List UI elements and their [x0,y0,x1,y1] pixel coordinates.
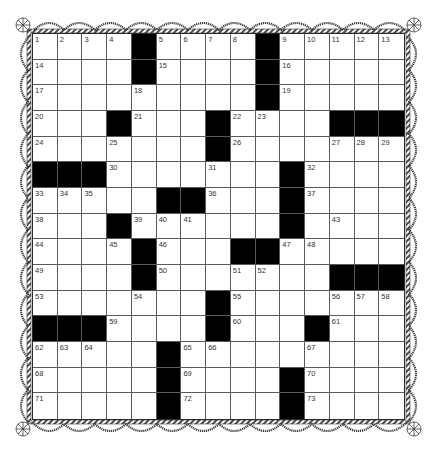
answer-cell[interactable]: 30 [107,162,132,188]
answer-cell[interactable]: 8 [231,34,256,60]
answer-cell[interactable] [379,162,404,188]
answer-cell[interactable] [82,368,107,394]
answer-cell[interactable]: 32 [305,162,330,188]
answer-cell[interactable] [355,342,380,368]
answer-cell[interactable] [206,60,231,86]
answer-cell[interactable]: 24 [33,137,58,163]
answer-cell[interactable] [231,368,256,394]
answer-cell[interactable]: 12 [355,34,380,60]
answer-cell[interactable]: 54 [132,291,157,317]
answer-cell[interactable]: 61 [330,316,355,342]
answer-cell[interactable] [280,111,305,137]
answer-cell[interactable]: 63 [58,342,83,368]
answer-cell[interactable]: 16 [280,60,305,86]
answer-cell[interactable]: 33 [33,188,58,214]
answer-cell[interactable]: 50 [157,265,182,291]
answer-cell[interactable] [355,239,380,265]
answer-cell[interactable]: 56 [330,291,355,317]
answer-cell[interactable] [330,60,355,86]
answer-cell[interactable]: 60 [231,316,256,342]
answer-cell[interactable] [379,368,404,394]
answer-cell[interactable] [206,214,231,240]
answer-cell[interactable] [58,368,83,394]
answer-cell[interactable] [58,137,83,163]
answer-cell[interactable] [280,265,305,291]
answer-cell[interactable]: 70 [305,368,330,394]
answer-cell[interactable] [256,368,281,394]
answer-cell[interactable] [82,265,107,291]
answer-cell[interactable]: 58 [379,291,404,317]
answer-cell[interactable] [231,214,256,240]
answer-cell[interactable]: 64 [82,342,107,368]
answer-cell[interactable] [58,393,83,419]
answer-cell[interactable]: 43 [330,214,355,240]
answer-cell[interactable]: 22 [231,111,256,137]
answer-cell[interactable] [231,342,256,368]
answer-cell[interactable] [157,291,182,317]
answer-cell[interactable] [231,393,256,419]
answer-cell[interactable] [379,342,404,368]
answer-cell[interactable] [157,162,182,188]
answer-cell[interactable] [256,393,281,419]
answer-cell[interactable]: 36 [206,188,231,214]
answer-cell[interactable]: 20 [33,111,58,137]
answer-cell[interactable] [58,111,83,137]
answer-cell[interactable]: 47 [280,239,305,265]
answer-cell[interactable] [181,60,206,86]
answer-cell[interactable]: 38 [33,214,58,240]
answer-cell[interactable] [206,368,231,394]
answer-cell[interactable] [330,393,355,419]
answer-cell[interactable]: 5 [157,34,182,60]
answer-cell[interactable] [355,188,380,214]
answer-cell[interactable]: 59 [107,316,132,342]
answer-cell[interactable]: 73 [305,393,330,419]
answer-cell[interactable] [330,188,355,214]
answer-cell[interactable]: 67 [305,342,330,368]
answer-cell[interactable]: 65 [181,342,206,368]
answer-cell[interactable] [181,265,206,291]
answer-cell[interactable]: 72 [181,393,206,419]
answer-cell[interactable]: 46 [157,239,182,265]
answer-cell[interactable] [355,85,380,111]
answer-cell[interactable]: 66 [206,342,231,368]
answer-cell[interactable]: 18 [132,85,157,111]
answer-cell[interactable]: 4 [107,34,132,60]
answer-cell[interactable] [132,342,157,368]
answer-cell[interactable] [231,85,256,111]
answer-cell[interactable] [231,162,256,188]
answer-cell[interactable] [58,265,83,291]
answer-cell[interactable] [355,368,380,394]
answer-cell[interactable] [206,85,231,111]
answer-cell[interactable] [256,214,281,240]
answer-cell[interactable] [107,393,132,419]
answer-cell[interactable] [379,316,404,342]
answer-cell[interactable] [256,316,281,342]
answer-cell[interactable]: 51 [231,265,256,291]
answer-cell[interactable]: 55 [231,291,256,317]
answer-cell[interactable] [379,393,404,419]
answer-cell[interactable] [82,239,107,265]
answer-cell[interactable] [305,265,330,291]
answer-cell[interactable]: 34 [58,188,83,214]
answer-cell[interactable]: 7 [206,34,231,60]
answer-cell[interactable] [305,214,330,240]
answer-cell[interactable] [305,85,330,111]
answer-cell[interactable] [157,316,182,342]
answer-cell[interactable]: 15 [157,60,182,86]
answer-cell[interactable]: 28 [355,137,380,163]
answer-cell[interactable] [132,368,157,394]
answer-cell[interactable] [107,342,132,368]
answer-cell[interactable] [256,137,281,163]
answer-cell[interactable] [305,111,330,137]
answer-cell[interactable] [58,291,83,317]
answer-cell[interactable] [181,239,206,265]
answer-cell[interactable] [107,368,132,394]
answer-cell[interactable]: 41 [181,214,206,240]
answer-cell[interactable] [132,162,157,188]
answer-cell[interactable] [132,316,157,342]
answer-cell[interactable] [206,265,231,291]
answer-cell[interactable] [330,162,355,188]
answer-cell[interactable] [157,85,182,111]
answer-cell[interactable]: 71 [33,393,58,419]
answer-cell[interactable] [107,291,132,317]
